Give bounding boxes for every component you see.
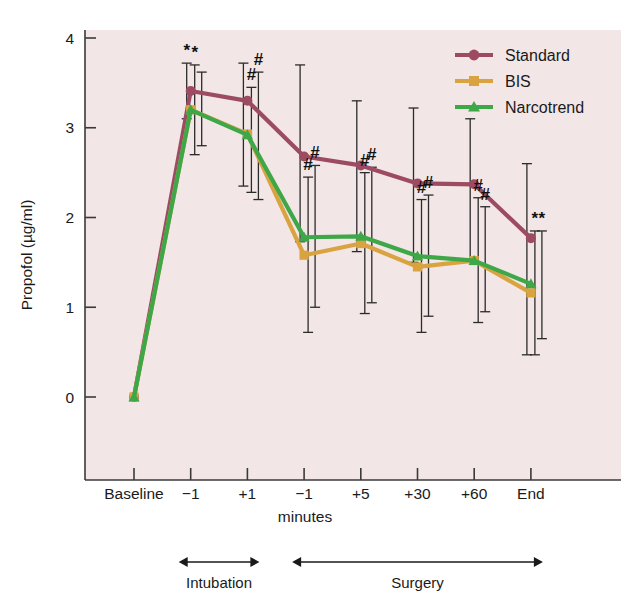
y-tick-label: 0 xyxy=(65,389,74,406)
data-point-bis xyxy=(413,262,422,271)
data-point-standard xyxy=(186,86,196,96)
x-axis-title: minutes xyxy=(278,508,333,525)
x-tick-label: +30 xyxy=(404,485,431,502)
significance-marker: * xyxy=(532,209,539,228)
y-axis-title: Propofol (µg/ml) xyxy=(18,200,35,311)
x-tick-label: +5 xyxy=(352,485,370,502)
data-point-standard xyxy=(526,233,536,243)
x-tick-label: +60 xyxy=(461,485,488,502)
data-point-standard xyxy=(242,96,252,106)
y-tick-label: 2 xyxy=(65,209,74,226)
chart-canvas: 01234 Baseline−1+1−1+5+30+60End **######… xyxy=(0,0,638,614)
legend-label-standard: Standard xyxy=(505,47,570,64)
significance-marker: # xyxy=(480,185,490,204)
arrow-left-icon xyxy=(292,557,301,567)
significance-marker: # xyxy=(424,173,434,192)
legend-marker-circle-icon xyxy=(469,50,480,61)
significance-marker: * xyxy=(539,209,546,228)
plot-area-background xyxy=(85,30,621,480)
significance-marker: * xyxy=(183,41,190,60)
propofol-concentration-chart: 01234 Baseline−1+1−1+5+30+60End **######… xyxy=(0,0,638,614)
y-tick-label: 1 xyxy=(65,299,74,316)
data-point-bis xyxy=(300,251,309,260)
x-tick-label: +1 xyxy=(239,485,257,502)
x-tick-label: −1 xyxy=(182,485,200,502)
x-tick-label: End xyxy=(517,485,545,502)
x-tick-label: −1 xyxy=(295,485,313,502)
data-point-bis xyxy=(526,288,535,297)
phase-brackets-group: IntubationSurgery xyxy=(179,557,543,591)
arrow-right-icon xyxy=(534,557,543,567)
arrow-right-icon xyxy=(250,557,259,567)
significance-marker: # xyxy=(310,143,320,162)
phase-bracket-label: Intubation xyxy=(186,574,252,591)
significance-marker: # xyxy=(367,145,377,164)
legend-label-bis: BIS xyxy=(505,73,531,90)
significance-marker: * xyxy=(191,43,198,62)
y-tick-label: 3 xyxy=(65,119,74,136)
significance-marker: # xyxy=(254,50,264,69)
y-tick-label: 4 xyxy=(65,30,74,47)
arrow-left-icon xyxy=(179,557,188,567)
phase-bracket-label: Surgery xyxy=(391,574,444,591)
x-tick-label: Baseline xyxy=(104,485,163,502)
legend-label-narcotrend: Narcotrend xyxy=(505,99,584,116)
legend-marker-square-icon xyxy=(469,76,479,86)
